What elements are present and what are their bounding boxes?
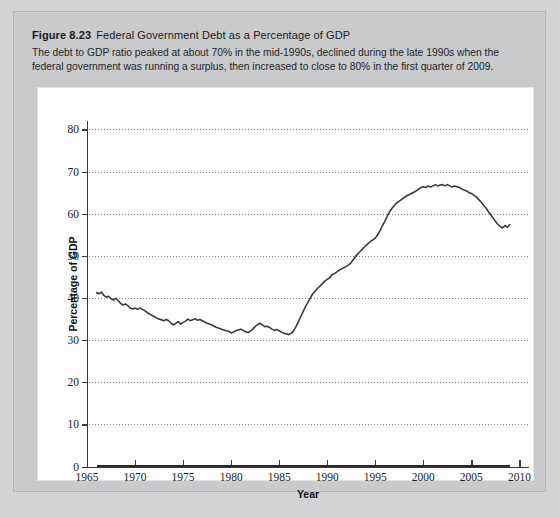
figure-caption: Figure 8.23Federal Government Debt as a … (32, 28, 532, 74)
series-polyline-federal-debt (97, 185, 510, 335)
caption-title-line: Figure 8.23Federal Government Debt as a … (32, 28, 532, 43)
x-axis-title: Year (87, 488, 529, 500)
x-axis-baseline-marker (97, 465, 510, 468)
y-axis-title: Percentage of GDP (67, 209, 79, 359)
chart-plot-area: 01020304050607080 1965197019751980198519… (38, 88, 533, 480)
caption-body: The debt to GDP ratio peaked at about 70… (32, 46, 529, 74)
figure-title: Federal Government Debt as a Percentage … (91, 29, 350, 41)
figure-container: Figure 8.23Federal Government Debt as a … (13, 11, 546, 492)
series-line-chart (38, 88, 535, 482)
chart-plot-panel: 01020304050607080 1965197019751980198519… (37, 87, 534, 481)
figure-number: Figure 8.23 (32, 29, 91, 41)
